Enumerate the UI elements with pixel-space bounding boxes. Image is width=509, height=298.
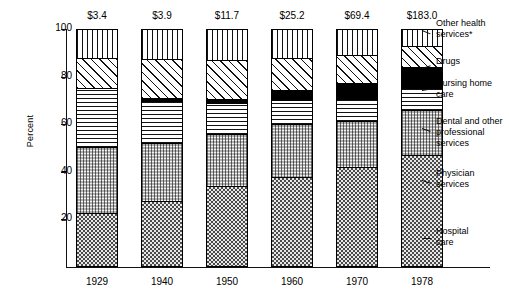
y-tick-mark — [61, 77, 67, 78]
segment-hospital-care — [207, 187, 247, 267]
y-tick-label: 40 — [38, 166, 72, 176]
bar-1970[interactable] — [336, 29, 378, 267]
y-tick-mark — [61, 29, 67, 30]
segment-hospital-care — [337, 168, 377, 267]
bar-1960[interactable] — [271, 29, 313, 267]
legend-item-physician[interactable]: Physician services — [436, 168, 509, 190]
y-tick-label: 100 — [38, 23, 72, 33]
legend-item-drugs[interactable]: Drugs — [436, 56, 509, 67]
segment-physician-services — [142, 144, 182, 202]
legend-item-hospital[interactable]: Hospital care — [436, 226, 509, 248]
segment-hospital-care — [142, 202, 182, 267]
segment-drugs — [142, 60, 182, 99]
segment-physician-services — [207, 135, 247, 187]
x-label-1978: 1978 — [387, 276, 457, 287]
segment-dental-and-other-professional-services — [207, 104, 247, 135]
segment-nursing-home-care — [337, 84, 377, 101]
segment-other-health-services — [272, 30, 312, 59]
segment-dental-and-other-professional-services — [77, 89, 117, 147]
segment-other-health-services — [207, 30, 247, 61]
segment-other-health-services — [142, 30, 182, 60]
segment-other-health-services — [77, 30, 117, 59]
bar-value-label-1970: $69.4 — [322, 10, 392, 21]
segment-nursing-home-care — [272, 91, 312, 102]
segment-physician-services — [272, 125, 312, 177]
bar-1950[interactable] — [206, 29, 248, 267]
bar-1929[interactable] — [76, 29, 118, 267]
segment-drugs — [77, 59, 117, 89]
segment-dental-and-other-professional-services — [337, 100, 377, 121]
legend-item-dental-and-other[interactable]: Dental and other professional services — [436, 116, 509, 150]
stacked-bar-chart: Percent 10080604020 $3.4$3.9$11.7$25.2$6… — [0, 0, 509, 298]
x-label-1960: 1960 — [257, 276, 327, 287]
bar-value-label-1929: $3.4 — [62, 10, 132, 21]
bar-value-label-1940: $3.9 — [127, 10, 197, 21]
y-tick-label: 20 — [38, 213, 72, 223]
bar-1940[interactable] — [141, 29, 183, 267]
x-label-1929: 1929 — [62, 276, 132, 287]
segment-physician-services — [337, 122, 377, 168]
segment-dental-and-other-professional-services — [272, 101, 312, 125]
x-label-1950: 1950 — [192, 276, 262, 287]
segment-hospital-care — [77, 214, 117, 267]
segment-drugs — [337, 56, 377, 83]
segment-drugs — [207, 61, 247, 100]
bar-value-label-1950: $11.7 — [192, 10, 262, 21]
legend-leader-line — [422, 238, 431, 239]
y-tick-label: 80 — [38, 71, 72, 81]
segment-physician-services — [77, 148, 117, 214]
segment-hospital-care — [272, 178, 312, 267]
segment-drugs — [272, 59, 312, 91]
x-label-1970: 1970 — [322, 276, 392, 287]
x-label-1940: 1940 — [127, 276, 197, 287]
y-axis-line — [66, 29, 67, 268]
y-tick-mark — [61, 219, 67, 220]
y-tick-mark — [61, 124, 67, 125]
y-tick-label: 60 — [38, 118, 72, 128]
y-tick-mark — [61, 172, 67, 173]
segment-other-health-services — [337, 30, 377, 56]
legend-item-nursing-home[interactable]: Nursing home care — [436, 78, 509, 100]
segment-dental-and-other-professional-services — [142, 102, 182, 144]
y-axis-title: Percent — [25, 91, 35, 171]
x-axis-line — [66, 267, 490, 268]
bar-value-label-1960: $25.2 — [257, 10, 327, 21]
legend-item-other-health[interactable]: Other health services* — [436, 18, 509, 40]
